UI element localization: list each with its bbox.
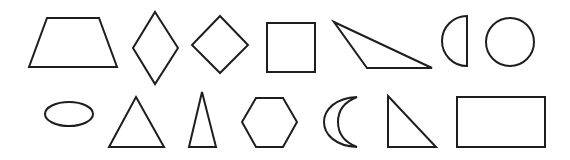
oval-shape: [45, 102, 93, 126]
square-shape: [267, 23, 315, 72]
triangle-shape: [109, 97, 164, 147]
semicircle-shape: [442, 16, 467, 66]
shape-row-1: [29, 12, 534, 84]
rhombus-shape: [133, 12, 178, 84]
trapezoid-shape: [29, 18, 117, 67]
crescent-shape: [324, 97, 357, 147]
shape-row-2: [45, 92, 545, 147]
obtuse-triangle-shape: [334, 22, 432, 68]
isosceles-triangle-shape: [189, 92, 216, 147]
diamond-square-shape: [192, 16, 248, 73]
circle-shape: [486, 18, 534, 66]
right-triangle-shape: [388, 96, 436, 147]
shapes-figure: [0, 0, 570, 160]
rectangle-shape: [457, 97, 545, 147]
hexagon-shape: [242, 98, 297, 147]
